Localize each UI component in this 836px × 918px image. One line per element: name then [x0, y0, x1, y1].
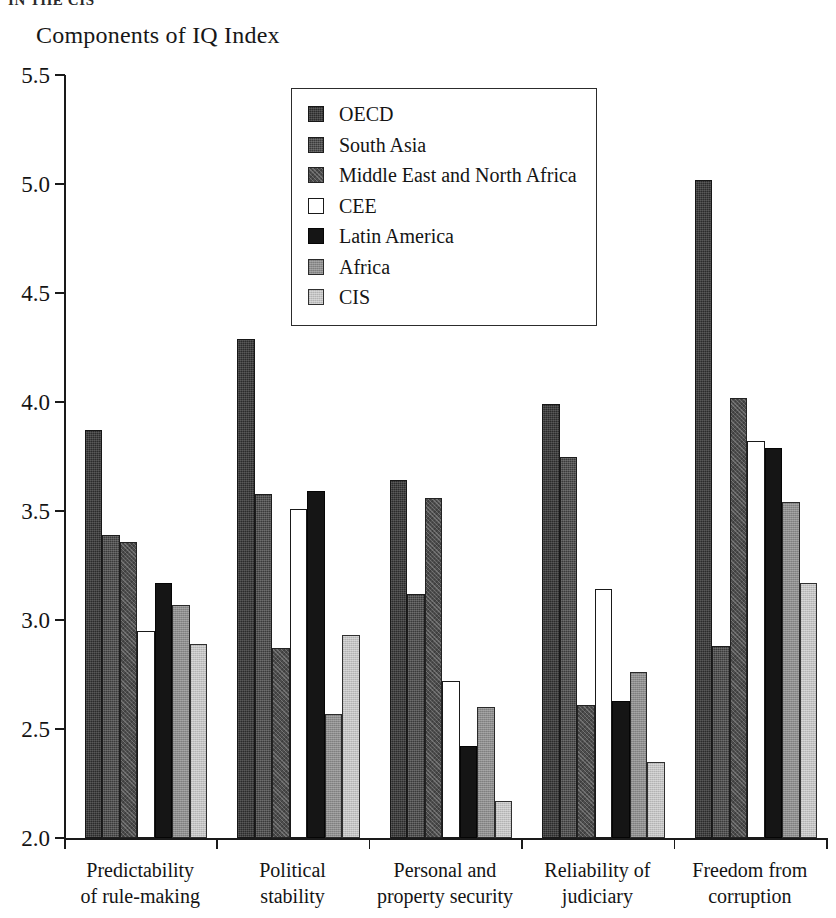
- bar: [542, 404, 560, 838]
- legend-item-label: OECD: [339, 104, 393, 124]
- y-axis-tick: [55, 183, 65, 185]
- y-axis-tick: [55, 728, 65, 730]
- bar: [730, 398, 748, 838]
- legend-swatch-icon: [308, 137, 324, 153]
- bar: [712, 646, 730, 838]
- bar: [695, 180, 713, 838]
- y-axis-tick-label: 3.5: [21, 500, 50, 523]
- bar: [390, 480, 408, 838]
- legend-swatch-icon: [308, 167, 324, 183]
- y-axis-tick: [55, 510, 65, 512]
- bar: [460, 746, 478, 838]
- x-axis-tick: [64, 838, 66, 849]
- legend-item-africa[interactable]: Africa: [292, 252, 596, 283]
- bar: [560, 457, 578, 839]
- legend-item-label: Middle East and North Africa: [339, 165, 577, 185]
- legend-item-label: Latin America: [339, 226, 454, 246]
- legend-item-label: South Asia: [339, 135, 426, 155]
- bar: [155, 583, 173, 838]
- chart-page: IN THE CIS Components of IQ Index 5.55.0…: [0, 0, 836, 918]
- y-axis-tick-label: 4.5: [21, 282, 50, 305]
- x-axis-category-label: Freedom from corruption: [660, 858, 836, 909]
- bar: [255, 494, 273, 838]
- bar: [747, 441, 765, 838]
- legend-swatch-icon: [308, 198, 324, 214]
- x-axis-tick: [521, 838, 523, 849]
- bar: [120, 542, 138, 838]
- bar: [495, 801, 513, 838]
- y-axis-tick-label: 3.0: [21, 609, 50, 632]
- bar: [407, 594, 425, 838]
- bar: [172, 605, 190, 838]
- bar: [290, 509, 308, 838]
- bar: [595, 589, 613, 838]
- bar: [237, 339, 255, 838]
- bar: [85, 430, 103, 838]
- x-axis-tick: [216, 838, 218, 849]
- bar: [577, 705, 595, 838]
- y-axis-line: [64, 75, 66, 838]
- bar: [782, 502, 800, 838]
- legend-item-oecd[interactable]: OECD: [292, 99, 596, 130]
- cut-off-page-header: IN THE CIS: [8, 0, 95, 6]
- legend-swatch-icon: [308, 106, 324, 122]
- y-axis-tick-label: 5.5: [21, 64, 50, 87]
- bar: [307, 491, 325, 838]
- legend-item-label: CIS: [339, 287, 370, 307]
- legend-item-south-asia[interactable]: South Asia: [292, 130, 596, 161]
- y-axis-tick: [55, 619, 65, 621]
- bar: [342, 635, 360, 838]
- bar: [765, 448, 783, 838]
- y-axis-tick: [55, 401, 65, 403]
- bar: [800, 583, 818, 838]
- y-axis-tick-label: 5.0: [21, 173, 50, 196]
- x-axis-line: [64, 838, 826, 840]
- bar: [137, 631, 155, 838]
- bar: [425, 498, 443, 838]
- legend-item-middle-east-and-north-africa[interactable]: Middle East and North Africa: [292, 160, 596, 191]
- x-axis-tick: [369, 838, 371, 849]
- bar: [477, 707, 495, 838]
- legend-item-label: Africa: [339, 257, 390, 277]
- bar: [612, 701, 630, 838]
- bar: [630, 672, 648, 838]
- x-axis-tick: [674, 838, 676, 849]
- bar: [325, 714, 343, 838]
- y-axis-tick-label: 2.5: [21, 718, 50, 741]
- bar: [647, 762, 665, 838]
- chart-legend: OECDSouth AsiaMiddle East and North Afri…: [291, 88, 597, 326]
- legend-item-latin-america[interactable]: Latin America: [292, 221, 596, 252]
- bar: [190, 644, 208, 838]
- legend-item-cis[interactable]: CIS: [292, 282, 596, 313]
- y-axis-tick-label: 2.0: [21, 827, 50, 850]
- bar: [272, 648, 290, 838]
- y-axis-tick-label: 4.0: [21, 391, 50, 414]
- y-axis-tick: [55, 292, 65, 294]
- bar: [102, 535, 120, 838]
- legend-item-cee[interactable]: CEE: [292, 191, 596, 222]
- legend-swatch-icon: [308, 259, 324, 275]
- legend-swatch-icon: [308, 289, 324, 305]
- legend-item-label: CEE: [339, 196, 377, 216]
- bar: [442, 681, 460, 838]
- x-axis-tick: [826, 838, 828, 849]
- chart-title: Components of IQ Index: [36, 22, 280, 49]
- legend-swatch-icon: [308, 228, 324, 244]
- y-axis-tick: [55, 74, 65, 76]
